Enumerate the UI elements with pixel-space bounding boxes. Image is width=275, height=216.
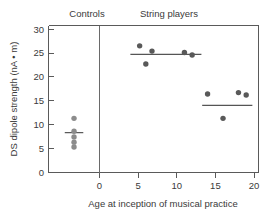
- y-tick-label-20: 20: [33, 71, 44, 82]
- x-axis-ticks: [100, 173, 255, 178]
- series-group: [65, 116, 84, 150]
- x-axis-title: Age at inception of musical practice: [88, 198, 237, 209]
- data-point: [143, 61, 148, 66]
- x-tick-label-15: 15: [210, 180, 221, 191]
- data-point: [182, 50, 187, 55]
- x-tick-label-5: 5: [136, 180, 141, 191]
- data-points-layer: [65, 43, 253, 149]
- data-point: [236, 90, 241, 95]
- group-label-string-players: String players: [140, 8, 198, 19]
- y-axis-tick-labels: 30 25 20 15 10 5 0: [33, 24, 44, 178]
- data-point: [149, 48, 154, 53]
- plot-frame: [49, 26, 259, 173]
- x-tick-label-20: 20: [249, 180, 260, 191]
- data-point: [137, 43, 142, 48]
- data-point: [71, 144, 76, 149]
- y-tick-label-25: 25: [33, 47, 44, 58]
- x-tick-label-0: 0: [97, 180, 102, 191]
- y-tick-label-10: 10: [33, 119, 44, 130]
- data-point: [189, 52, 194, 57]
- y-tick-label-5: 5: [39, 143, 44, 154]
- group-label-controls: Controls: [69, 8, 105, 19]
- x-axis-tick-labels: 0 5 10 15 20: [97, 180, 260, 191]
- y-tick-label-0: 0: [39, 167, 44, 178]
- series-group: [202, 90, 252, 121]
- y-axis-ticks: [49, 29, 54, 172]
- data-point: [71, 129, 76, 134]
- x-tick-label-10: 10: [172, 180, 183, 191]
- y-tick-label-30: 30: [33, 24, 44, 35]
- data-point: [220, 116, 225, 121]
- scatter-plot-figure: Controls String players 30 25 20 15 10 5…: [0, 0, 275, 216]
- series-group: [130, 43, 201, 67]
- plot-svg: Controls String players 30 25 20 15 10 5…: [0, 0, 275, 216]
- data-point: [71, 116, 76, 121]
- data-point: [243, 92, 248, 97]
- data-point: [71, 134, 76, 139]
- data-point: [205, 91, 210, 96]
- data-point: [71, 139, 76, 144]
- y-tick-label-15: 15: [33, 95, 44, 106]
- y-axis-title: DS dipole strength (nA • m): [8, 42, 19, 157]
